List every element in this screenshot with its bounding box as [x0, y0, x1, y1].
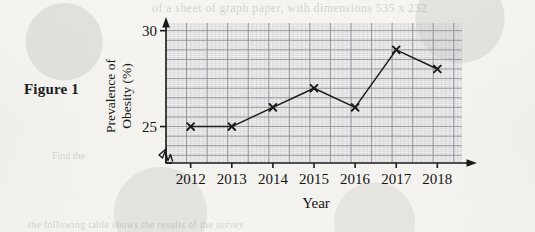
x-tick-label: 2012 — [176, 171, 206, 187]
svg-text:Obesity (%): Obesity (%) — [119, 63, 134, 129]
x-tick-label: 2017 — [381, 171, 412, 187]
grid-minor-lines — [166, 23, 462, 163]
y-tick-label: 25 — [142, 119, 157, 135]
x-tick-label: 2018 — [422, 171, 452, 187]
y-axis-tick-labels: 2530 — [142, 23, 157, 135]
x-tick-label: 2014 — [258, 171, 289, 187]
x-tick-label: 2016 — [340, 171, 371, 187]
obesity-prevalence-line-chart: 2530 2012201320142015201620172018 Year P… — [0, 0, 535, 232]
x-tick-label: 2013 — [217, 171, 247, 187]
x-axis-title: Year — [302, 195, 330, 211]
y-axis-ticks — [160, 31, 166, 127]
y-axis-title: Prevalence of Obesity (%) — [103, 59, 134, 133]
svg-text:Prevalence of: Prevalence of — [103, 59, 118, 133]
x-tick-label: 2015 — [299, 171, 329, 187]
x-axis-tick-labels: 2012201320142015201620172018 — [176, 171, 453, 187]
y-tick-label: 30 — [142, 23, 157, 39]
